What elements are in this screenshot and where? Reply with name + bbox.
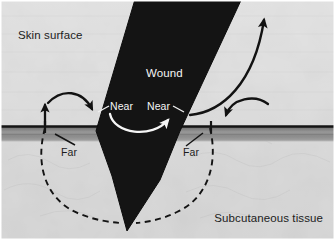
label-subcutaneous-tissue: Subcutaneous tissue — [214, 212, 323, 224]
label-wound: Wound — [146, 67, 183, 79]
label-far-left: Far — [61, 146, 77, 158]
label-near-right: Near — [147, 100, 170, 112]
wound-suture-diagram: Skin surface Wound Near Near Far Far Sub… — [0, 0, 335, 240]
label-far-right: Far — [183, 146, 199, 158]
label-skin-surface: Skin surface — [18, 29, 82, 41]
label-near-left: Near — [110, 100, 133, 112]
